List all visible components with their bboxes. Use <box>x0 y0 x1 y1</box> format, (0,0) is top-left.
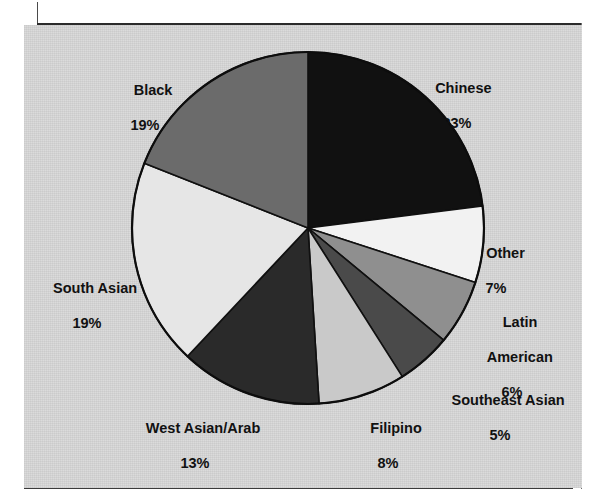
pie-label-west-asian-arab-pct: 13% <box>110 455 280 473</box>
figure-root: Chinese 23% Other 7% Latin American 6% S… <box>0 0 597 496</box>
pie-label-filipino: Filipino 8% <box>342 402 434 496</box>
pie-label-southeast-asian-pct: 5% <box>424 427 576 445</box>
pie-label-west-asian-arab-name: West Asian/Arab <box>146 420 260 436</box>
pie-label-chinese-name: Chinese <box>435 80 491 96</box>
pie-label-latin-american-name-line1: Latin <box>503 314 538 330</box>
pie-label-south-asian-pct: 19% <box>22 315 152 333</box>
pie-label-southeast-asian-name: Southeast Asian <box>452 392 565 408</box>
pie-label-southeast-asian: Southeast Asian 5% <box>424 374 576 480</box>
pie-label-latin-american-name-line2: American <box>487 349 553 365</box>
pie-label-west-asian-arab: West Asian/Arab 13% <box>110 402 280 496</box>
pie-label-other-name: Other <box>486 245 525 261</box>
pie-label-filipino-name: Filipino <box>370 420 422 436</box>
pie-label-black-name: Black <box>134 82 173 98</box>
pie-label-filipino-pct: 8% <box>342 455 434 473</box>
pie-label-chinese-pct: 23% <box>419 115 495 133</box>
pie-label-south-asian: South Asian 19% <box>22 262 152 368</box>
pie-label-black-pct: 19% <box>103 117 187 135</box>
pie-label-chinese: Chinese 23% <box>419 62 495 168</box>
pie-label-south-asian-name: South Asian <box>53 280 137 296</box>
pie-label-black: Black 19% <box>103 64 187 170</box>
